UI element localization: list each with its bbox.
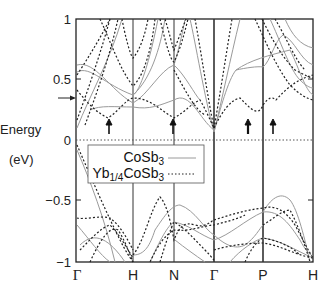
- band-structure-chart: 1 0.5 0 −0.5 −1 Energy (eV) Γ H N Γ P H …: [0, 0, 330, 288]
- k-label-gamma-1: Γ: [73, 267, 82, 283]
- k-point-lines: [133, 19, 263, 262]
- arrow-up-icon: [245, 119, 251, 134]
- arrow-up-icon: [270, 119, 276, 134]
- arrow-up-icon: [170, 119, 176, 134]
- y-tick-0: 0: [64, 133, 71, 148]
- k-label-n: N: [169, 267, 179, 283]
- y-axis-unit: (eV): [9, 152, 34, 167]
- y-tick-1: 1: [64, 12, 71, 27]
- y-axis-title: Energy: [0, 122, 42, 137]
- arrow-up-icon: [106, 119, 112, 134]
- k-label-h-1: H: [128, 267, 138, 283]
- k-label-gamma-2: Γ: [210, 267, 219, 283]
- k-label-p: P: [258, 267, 267, 283]
- k-label-h-2: H: [308, 267, 318, 283]
- legend-label-yb-cosb3: Yb1/4CoSb3: [92, 165, 164, 183]
- y-tick-minus-1: −1: [56, 255, 71, 270]
- left-energy-arrow-icon: [58, 96, 76, 101]
- y-tick-minus-0.5: −0.5: [45, 193, 71, 208]
- band-minimum-arrows: [106, 119, 276, 134]
- legend: CoSb3 Yb1/4CoSb3: [88, 145, 204, 183]
- y-tick-0.5: 0.5: [53, 72, 71, 87]
